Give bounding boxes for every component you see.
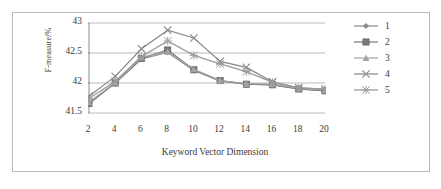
legend-item-4[interactable]: 4 <box>352 66 422 82</box>
legend-label: 4 <box>382 69 390 79</box>
x-axis-tick: 6 <box>128 124 152 134</box>
legend-item-1[interactable]: 1 <box>352 18 422 34</box>
legend-marker-square-icon <box>352 35 382 49</box>
x-axis-tick: 18 <box>286 124 310 134</box>
series-line <box>89 50 325 103</box>
legend-label: 1 <box>382 21 390 31</box>
x-axis-title: Keyword Vector Dimension <box>80 147 350 157</box>
data-point <box>164 37 172 45</box>
legend-marker-diamond-icon <box>352 19 382 33</box>
series-2 <box>88 47 326 107</box>
x-axis-tick: 16 <box>260 124 284 134</box>
x-axis-tick: 8 <box>155 124 179 134</box>
x-axis-tick: 14 <box>233 124 257 134</box>
y-axis-tick: 41.5 <box>48 106 82 116</box>
data-point <box>137 53 145 61</box>
series-5 <box>88 37 326 103</box>
plot-svg <box>88 22 326 114</box>
legend-item-2[interactable]: 2 <box>352 34 422 50</box>
y-axis-tick: 43 <box>48 16 82 26</box>
legend-item-5[interactable]: 5 <box>352 82 422 98</box>
plot-area <box>88 22 324 112</box>
chart-figure: F-measure/% 41.54242.543 246810121416182… <box>0 0 441 189</box>
legend-marker-star-icon <box>352 83 382 97</box>
legend-label: 2 <box>382 37 390 47</box>
y-axis-tick: 42 <box>48 76 82 86</box>
chart-legend: 12345 <box>352 18 422 98</box>
data-point <box>190 51 198 59</box>
y-axis-tick: 42.5 <box>48 46 82 56</box>
legend-label: 3 <box>382 53 390 63</box>
data-point <box>295 84 303 92</box>
data-point <box>242 68 250 76</box>
series-4 <box>88 27 326 100</box>
legend-marker-triangle-icon <box>352 51 382 65</box>
legend-marker-x-icon <box>352 67 382 81</box>
data-point <box>216 60 224 68</box>
x-axis-tick: 10 <box>181 124 205 134</box>
legend-item-3[interactable]: 3 <box>352 50 422 66</box>
x-axis-tick: 2 <box>76 124 100 134</box>
x-axis-tick: 4 <box>102 124 126 134</box>
series-1 <box>88 49 326 106</box>
x-axis-tick: 12 <box>207 124 231 134</box>
data-point <box>190 34 197 41</box>
data-point <box>111 77 119 85</box>
data-point <box>138 45 145 52</box>
legend-label: 5 <box>382 85 390 95</box>
data-point <box>164 27 171 34</box>
x-axis-tick: 20 <box>312 124 336 134</box>
series-3 <box>88 48 326 105</box>
data-point <box>268 78 276 86</box>
